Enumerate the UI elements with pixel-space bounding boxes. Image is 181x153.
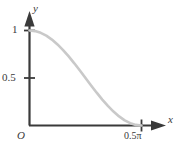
x-tick-label-half-pi: 0.5π (124, 131, 142, 141)
curve-cos-squared (30, 31, 142, 126)
x-axis-label: x (168, 114, 173, 125)
y-axis-label: y (33, 3, 38, 14)
y-tick-label-0point5: 0.5 (2, 72, 16, 83)
x-axis-arrowhead (151, 120, 166, 130)
plot-area (0, 0, 181, 153)
y-tick-label-1: 1 (12, 24, 18, 35)
origin-label: O (17, 130, 25, 141)
graph-figure: 1 0.5 0.5π O y x (0, 0, 181, 153)
